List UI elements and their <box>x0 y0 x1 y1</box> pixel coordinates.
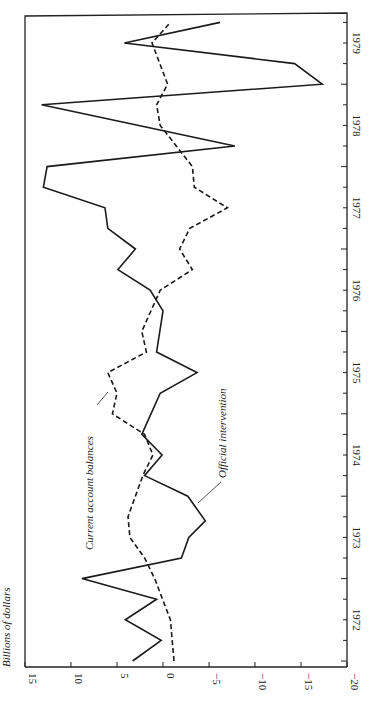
current-account-line <box>108 22 228 661</box>
value-axis-title: Billions of dollars <box>0 588 12 667</box>
year-label: 1973 <box>351 526 363 549</box>
value-tick-label: −15 <box>303 673 315 691</box>
year-label: 1976 <box>351 279 363 302</box>
annotation-official-intervention: Official intervention <box>216 388 228 478</box>
value-tick-label: −10 <box>257 673 269 691</box>
official-intervention-line <box>42 22 323 661</box>
year-label: 1977 <box>351 197 363 220</box>
value-tick-label: 0 <box>165 673 177 679</box>
year-label: 1979 <box>351 32 363 55</box>
year-label: 1972 <box>351 609 363 631</box>
axis-labels: 151050−5−10−15−2019721973197419751976197… <box>0 32 363 691</box>
value-tick-label: −20 <box>349 673 361 691</box>
year-label: 1975 <box>351 362 363 385</box>
series-lines <box>42 22 323 661</box>
value-tick-label: 5 <box>119 673 131 679</box>
annotation-current-account: Current account balances <box>83 436 95 550</box>
year-label: 1974 <box>351 444 363 467</box>
chart: 151050−5−10−15−2019721973197419751976197… <box>0 0 369 707</box>
annotation-leader <box>97 392 108 405</box>
axis-ticks <box>25 22 347 667</box>
value-tick-label: 10 <box>73 673 85 685</box>
year-label: 1978 <box>351 114 363 136</box>
value-tick-label: 15 <box>27 673 39 685</box>
annotation-leader <box>198 482 221 503</box>
value-tick-label: −5 <box>211 673 223 685</box>
